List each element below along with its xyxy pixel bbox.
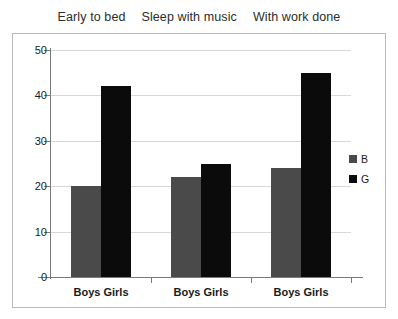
bar-b-group-1 xyxy=(71,186,101,277)
x-axis-group-label-2: Boys Girls xyxy=(151,286,251,298)
legend-label-g: G xyxy=(361,174,369,185)
chart-screenshot: Early to bed Sleep with music With work … xyxy=(0,0,398,319)
x-axis-group-label-3: Boys Girls xyxy=(251,286,351,298)
y-axis-tick-label: 10 xyxy=(35,226,47,237)
chart-title-row: Early to bed Sleep with music With work … xyxy=(0,7,398,27)
x-axis-line xyxy=(38,277,363,278)
x-axis-tick-mark xyxy=(351,277,352,283)
chart-legend: B G xyxy=(349,152,389,192)
chart-frame: 01020304050 Boys GirlsBoys GirlsBoys Gir… xyxy=(12,33,386,308)
y-axis-tick-label: 0 xyxy=(41,272,47,283)
x-axis-tick-mark xyxy=(251,277,252,283)
bar-g-group-1 xyxy=(101,86,131,277)
bar-g-group-2 xyxy=(201,164,231,278)
y-axis-tick-label: 30 xyxy=(35,135,47,146)
legend-label-b: B xyxy=(361,154,368,165)
chart-title-segment-1: Early to bed xyxy=(58,10,126,24)
x-axis-tick-mark xyxy=(151,277,152,283)
bars-area xyxy=(51,50,351,277)
y-axis-tick-label: 50 xyxy=(35,45,47,56)
y-axis-tick-label: 40 xyxy=(35,90,47,101)
chart-title-segment-2: Sleep with music xyxy=(141,10,236,24)
legend-swatch-b-icon xyxy=(349,155,357,163)
bar-g-group-3 xyxy=(301,73,331,277)
bar-b-group-2 xyxy=(171,177,201,277)
legend-swatch-g-icon xyxy=(349,175,357,183)
y-axis-tick-label: 20 xyxy=(35,181,47,192)
legend-item-b[interactable]: B xyxy=(349,152,389,166)
x-axis-group-label-1: Boys Girls xyxy=(51,286,151,298)
legend-item-g[interactable]: G xyxy=(349,172,389,186)
chart-title-segment-3: With work done xyxy=(253,10,341,24)
bar-b-group-3 xyxy=(271,168,301,277)
